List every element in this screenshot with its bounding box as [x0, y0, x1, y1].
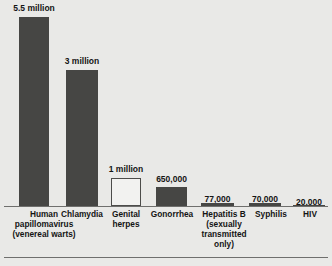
- category-label-genital-herpes: Genital herpes: [105, 209, 147, 229]
- footer-rule: [4, 257, 328, 258]
- category-line: Chlamydia: [56, 209, 108, 219]
- category-line: transmitted: [197, 229, 251, 239]
- category-line: Genital: [105, 209, 147, 219]
- plot-area: 5.5 million 3 million 1 million 650,000 …: [0, 0, 332, 207]
- bar-slot-hepatitis-b: 77,000: [201, 0, 234, 207]
- category-line: (sexually: [197, 219, 251, 229]
- category-line: Syphilis: [249, 209, 293, 219]
- category-line: papillomavirus: [0, 219, 88, 229]
- bar-slot-human-papillomavirus: 5.5 million: [19, 0, 49, 207]
- axis-baseline: [4, 206, 328, 207]
- category-label-hiv: HIV: [292, 209, 328, 219]
- category-line: Gonorrhea: [146, 209, 198, 219]
- bar-value-label: 3 million: [65, 56, 99, 66]
- category-label-hepatitis-b: Hepatitis B (sexually transmitted only): [197, 209, 251, 249]
- category-line: HIV: [292, 209, 328, 219]
- bar-gonorrhea[interactable]: [156, 187, 187, 206]
- bar-chart: 5.5 million 3 million 1 million 650,000 …: [0, 0, 332, 266]
- bar-value-label: 5.5 million: [13, 3, 55, 13]
- category-line: Hepatitis B: [197, 209, 251, 219]
- bar-slot-syphilis: 70,000: [249, 0, 281, 207]
- bar-slot-chlamydia: 3 million: [66, 0, 98, 207]
- bar-chlamydia[interactable]: [66, 70, 98, 206]
- category-label-chlamydia: Chlamydia: [56, 209, 108, 219]
- category-label-gonorrhea: Gonorrhea: [146, 209, 198, 219]
- category-label-syphilis: Syphilis: [249, 209, 293, 219]
- bar-genital-herpes[interactable]: [111, 178, 141, 206]
- bar-value-label: 1 million: [109, 164, 143, 174]
- category-line: only): [197, 239, 251, 249]
- category-line: (venereal warts): [0, 229, 88, 239]
- bar-slot-gonorrhea: 650,000: [156, 0, 187, 207]
- category-label-row: Human papillomavirus (venereal warts) Ch…: [0, 209, 332, 259]
- bar-slot-hiv: 20,000: [293, 0, 325, 207]
- bar-slot-genital-herpes: 1 million: [111, 0, 141, 207]
- category-line: herpes: [105, 219, 147, 229]
- bar-human-papillomavirus[interactable]: [19, 17, 49, 206]
- bar-value-label: 650,000: [156, 174, 187, 184]
